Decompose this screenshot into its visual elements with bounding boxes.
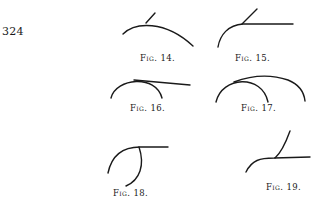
fig-16-drawing <box>111 80 190 98</box>
figure-drawings <box>0 0 320 203</box>
fig-18-drawing <box>108 147 168 186</box>
fig-15-drawing <box>218 9 293 47</box>
fig-14-caption: Fig. 14. <box>140 53 175 63</box>
fig-17-drawing <box>216 76 305 102</box>
fig-14-drawing <box>123 13 193 46</box>
fig-17-caption: Fig. 17. <box>241 103 276 113</box>
fig-15-caption: Fig. 15. <box>235 53 270 63</box>
fig-18-caption: Fig. 18. <box>113 188 148 198</box>
fig-16-caption: Fig. 16. <box>130 103 165 113</box>
fig-19-drawing <box>246 131 310 172</box>
fig-19-caption: Fig. 19. <box>266 182 301 192</box>
